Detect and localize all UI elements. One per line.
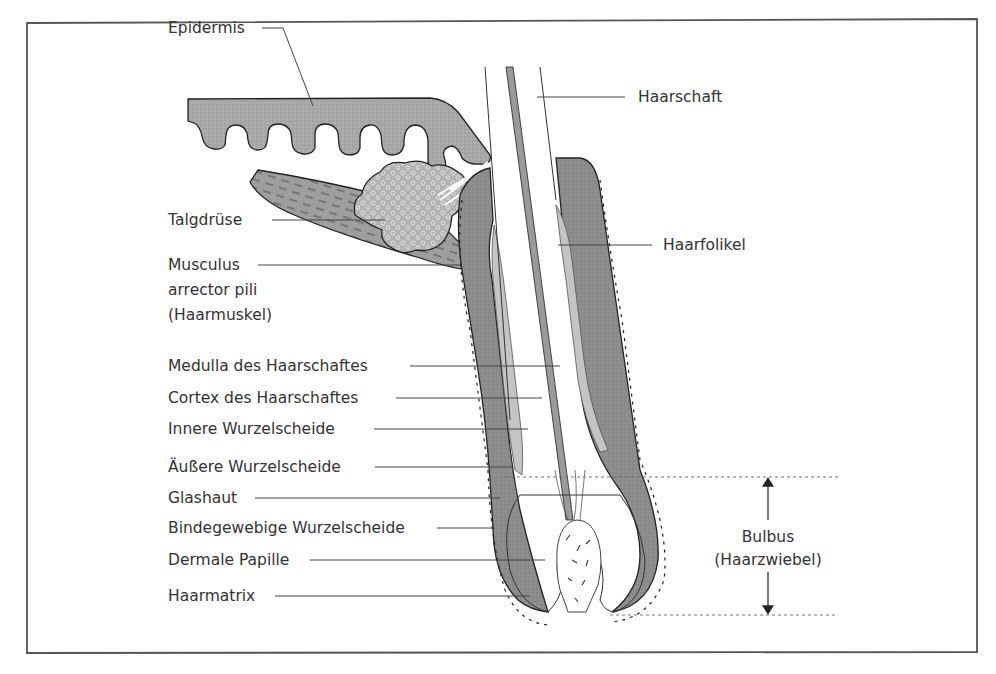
label-glashaut: Glashaut	[168, 489, 237, 507]
diagram-canvas: Epidermis Talgdrüse Musculus arrector pi…	[0, 0, 996, 674]
label-haarschaft: Haarschaft	[638, 88, 722, 106]
label-haarfolikel: Haarfolikel	[663, 236, 746, 254]
dermal-papilla	[557, 520, 601, 612]
label-innere-wurzelscheide: Innere Wurzelscheide	[168, 420, 335, 438]
label-dermale-papille: Dermale Papille	[168, 551, 289, 569]
label-musculus-line2: arrector pili	[168, 281, 257, 299]
label-musculus-line3: (Haarmuskel)	[168, 306, 272, 324]
label-bindegewebige-wurzelscheide: Bindegewebige Wurzelscheide	[168, 519, 405, 537]
label-talgdruese: Talgdrüse	[167, 211, 242, 229]
label-cortex: Cortex des Haarschaftes	[168, 389, 358, 407]
label-medulla: Medulla des Haarschaftes	[168, 357, 368, 375]
label-bulbus: Bulbus	[742, 528, 795, 546]
epidermis-shape	[188, 98, 490, 173]
label-haarmatrix: Haarmatrix	[168, 587, 255, 605]
label-aeussere-wurzelscheide: Äußere Wurzelscheide	[168, 457, 341, 476]
label-haarzwiebel: (Haarzwiebel)	[714, 551, 821, 569]
label-epidermis: Epidermis	[168, 19, 245, 37]
label-musculus-line1: Musculus	[168, 256, 240, 274]
